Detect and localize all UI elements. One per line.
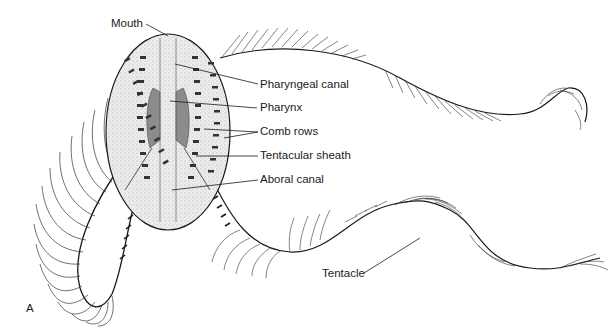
lower-right-tentacle — [212, 185, 608, 278]
label-pharynx: Pharynx — [260, 102, 302, 114]
ctenophore-body — [106, 34, 230, 230]
label-mouth: Mouth — [111, 18, 143, 30]
label-pharyngeal-canal: Pharyngeal canal — [260, 79, 349, 91]
ctenophore-diagram: Mouth Pharyngeal canal Pharynx Comb rows… — [0, 0, 615, 330]
label-tentacle: Tentacle — [322, 268, 365, 280]
label-tentacular-sheath: Tentacular sheath — [260, 150, 351, 162]
label-comb-rows: Comb rows — [260, 126, 318, 138]
panel-label: A — [26, 303, 34, 315]
label-aboral-canal: Aboral canal — [260, 174, 324, 186]
